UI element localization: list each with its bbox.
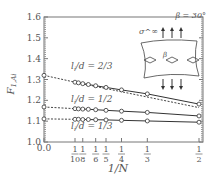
- inset-diagram: σ^∞β: [139, 27, 199, 90]
- x-tick-label-denominator: 2: [196, 155, 201, 164]
- plate-outline: [141, 40, 199, 78]
- arrowhead: [179, 27, 183, 31]
- data-point: [104, 85, 108, 89]
- series-label: li/d = 1/3: [71, 121, 113, 132]
- y-tick-label: 1.5: [27, 33, 42, 43]
- data-point: [81, 107, 85, 111]
- chart-svg: 1.01.11.21.31.41.51.60.0110181615141312 …: [0, 0, 214, 179]
- arrowhead: [161, 86, 165, 90]
- y-tick-label: 1.4: [27, 54, 42, 64]
- data-point: [197, 114, 201, 118]
- data-point: [145, 119, 149, 123]
- data-point: [86, 83, 90, 87]
- intercept-point: [42, 105, 46, 109]
- data-point: [86, 107, 90, 111]
- series-label: li/d = 2/3: [71, 61, 113, 72]
- x-tick-label-numerator: 1: [93, 145, 98, 154]
- data-point: [94, 84, 98, 88]
- y-axis-label: F1,Ai: [5, 74, 18, 96]
- plot-frame: [44, 17, 203, 142]
- arrowhead: [170, 27, 174, 31]
- data-point: [81, 82, 85, 86]
- beta-annotation: β = 30°: [174, 11, 206, 20]
- x-tick-label-numerator: 1: [80, 145, 85, 154]
- arrowhead: [170, 86, 174, 90]
- y-tick-label: 1.6: [27, 12, 42, 22]
- data-point: [145, 110, 149, 114]
- x-tick-label-numerator: 1: [145, 145, 150, 154]
- x-tick-label-numerator: 1: [72, 145, 77, 154]
- data-point: [120, 118, 124, 122]
- arrowhead: [179, 86, 183, 90]
- x-tick-label-denominator: 8: [80, 155, 85, 164]
- data-point: [120, 109, 124, 113]
- beta-symbol: β: [162, 51, 167, 59]
- x-tick-label-denominator: 6: [93, 155, 98, 164]
- x-tick-label-numerator: 1: [119, 145, 124, 154]
- chart: 1.01.11.21.31.41.51.60.0110181615141312 …: [0, 0, 214, 179]
- data-point: [94, 108, 98, 112]
- y-tick-label: 1.3: [27, 75, 42, 85]
- series-label: li/d = 1/2: [71, 94, 113, 105]
- intercept-point: [42, 73, 46, 77]
- data-point: [120, 88, 124, 92]
- arrowhead: [161, 27, 165, 31]
- intercept-point: [42, 117, 46, 121]
- extrapolation-line: [44, 107, 75, 109]
- x-tick-label-denominator: 3: [145, 155, 150, 164]
- data-point: [76, 107, 80, 111]
- data-point: [197, 120, 201, 124]
- data-point: [197, 102, 201, 106]
- x-tick-label-numerator: 1: [196, 145, 201, 154]
- y-tick-label: 1.2: [27, 95, 41, 105]
- data-point: [104, 108, 108, 112]
- extrapolation-line: [44, 75, 75, 82]
- x-tick-label-denominator: 10: [70, 155, 80, 164]
- data-point: [76, 81, 80, 85]
- sigma-label: σ^∞: [139, 27, 158, 36]
- data-point: [145, 92, 149, 96]
- y-tick-label: 1.1: [27, 116, 41, 126]
- x-axis-label: 1/N: [108, 162, 129, 175]
- x-tick-label: 0.0: [37, 143, 52, 153]
- x-tick-label-numerator: 1: [103, 145, 108, 154]
